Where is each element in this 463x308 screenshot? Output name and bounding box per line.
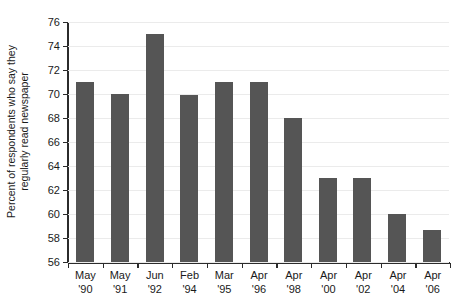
y-axis-title-text: Percent of respondents who say they regu… bbox=[5, 45, 30, 218]
y-tick-label: 60 bbox=[48, 208, 60, 220]
bar[interactable] bbox=[180, 95, 198, 262]
x-axis-label-year: '92 bbox=[137, 282, 172, 296]
x-axis-label-year: '98 bbox=[276, 282, 311, 296]
bar-slot bbox=[103, 22, 138, 262]
y-axis-title-line-2: regularly read newspaper bbox=[17, 72, 29, 190]
x-axis-label-month: Mar bbox=[207, 268, 242, 282]
x-axis-label: May'91 bbox=[103, 268, 138, 302]
bar[interactable] bbox=[423, 230, 441, 262]
x-axis-label-year: '91 bbox=[103, 282, 138, 296]
bar-slot bbox=[172, 22, 207, 262]
y-tick-label: 72 bbox=[48, 64, 60, 76]
y-tick-label: 64 bbox=[48, 160, 60, 172]
y-tick-label: 62 bbox=[48, 184, 60, 196]
x-axis-label-month: Apr bbox=[346, 268, 381, 282]
y-tick-label: 58 bbox=[48, 232, 60, 244]
x-axis-label-month: Apr bbox=[242, 268, 277, 282]
y-tick-label: 74 bbox=[48, 40, 60, 52]
bar[interactable] bbox=[146, 34, 164, 262]
x-axis-label: Apr'98 bbox=[276, 268, 311, 302]
bar-slot bbox=[207, 22, 242, 262]
plot-area: 5658606264666870727476 bbox=[68, 22, 449, 262]
x-axis-label-month: Apr bbox=[381, 268, 416, 282]
x-axis-label-month: May bbox=[103, 268, 138, 282]
bar-slot bbox=[241, 22, 276, 262]
x-axis-label-month: Apr bbox=[415, 268, 450, 282]
x-axis-label: May'90 bbox=[68, 268, 103, 302]
bar-slot bbox=[380, 22, 415, 262]
bar[interactable] bbox=[388, 214, 406, 262]
x-axis-label-year: '06 bbox=[415, 282, 450, 296]
x-axis-label-year: '95 bbox=[207, 282, 242, 296]
x-axis-label-year: '02 bbox=[346, 282, 381, 296]
bar[interactable] bbox=[319, 178, 337, 262]
bar[interactable] bbox=[353, 178, 371, 262]
x-axis-label-year: '96 bbox=[242, 282, 277, 296]
y-tick-label: 76 bbox=[48, 16, 60, 28]
x-axis-label-month: Feb bbox=[172, 268, 207, 282]
x-axis-label: Apr'00 bbox=[311, 268, 346, 302]
bar-chart: Percent of respondents who say they regu… bbox=[0, 0, 463, 308]
bar-slot bbox=[310, 22, 345, 262]
x-axis-label: Mar'95 bbox=[207, 268, 242, 302]
y-tick-label: 70 bbox=[48, 88, 60, 100]
x-axis-label-year: '94 bbox=[172, 282, 207, 296]
x-axis-label-month: May bbox=[68, 268, 103, 282]
x-axis-labels: May'90May'91Jun'92Feb'94Mar'95Apr'96Apr'… bbox=[68, 268, 450, 302]
y-tick-label: 56 bbox=[48, 256, 60, 268]
x-axis-label-year: '90 bbox=[68, 282, 103, 296]
x-axis-label-month: Jun bbox=[137, 268, 172, 282]
y-axis-title-line-1: Percent of respondents who say they bbox=[5, 45, 17, 218]
x-axis-label: Apr'96 bbox=[242, 268, 277, 302]
y-tick-label: 66 bbox=[48, 136, 60, 148]
x-axis-label: Apr'02 bbox=[346, 268, 381, 302]
bar-slot bbox=[345, 22, 380, 262]
bar-series bbox=[68, 22, 449, 262]
bar-slot bbox=[137, 22, 172, 262]
x-tick-mark bbox=[450, 263, 451, 268]
bar[interactable] bbox=[284, 118, 302, 262]
x-axis-label: Feb'94 bbox=[172, 268, 207, 302]
bar[interactable] bbox=[250, 82, 268, 262]
bar-slot bbox=[414, 22, 449, 262]
x-axis-label-year: '04 bbox=[381, 282, 416, 296]
bar-slot bbox=[276, 22, 311, 262]
x-axis-label: Apr'04 bbox=[381, 268, 416, 302]
x-axis-label: Jun'92 bbox=[137, 268, 172, 302]
bar[interactable] bbox=[111, 94, 129, 262]
bar[interactable] bbox=[215, 82, 233, 262]
x-axis-label-month: Apr bbox=[276, 268, 311, 282]
y-axis-title: Percent of respondents who say they regu… bbox=[0, 0, 34, 262]
x-axis-label-month: Apr bbox=[311, 268, 346, 282]
y-tick-label: 68 bbox=[48, 112, 60, 124]
bar-slot bbox=[68, 22, 103, 262]
x-axis-label-year: '00 bbox=[311, 282, 346, 296]
x-axis-label: Apr'06 bbox=[415, 268, 450, 302]
bar[interactable] bbox=[76, 82, 94, 262]
